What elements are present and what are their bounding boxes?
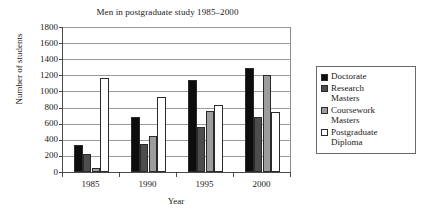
bar bbox=[254, 117, 263, 172]
bar bbox=[271, 112, 280, 172]
y-tick-label: 0 bbox=[18, 168, 58, 177]
bar bbox=[188, 80, 197, 172]
gridline bbox=[63, 43, 291, 44]
x-tick-mark bbox=[233, 172, 234, 177]
y-tick-mark bbox=[59, 140, 63, 141]
bar bbox=[157, 97, 166, 172]
x-tick-mark bbox=[119, 172, 120, 177]
bar bbox=[74, 145, 83, 172]
y-tick-label: 1600 bbox=[18, 39, 58, 48]
chart-title: Men in postgraduate study 1985–2000 bbox=[45, 7, 290, 18]
legend-item[interactable]: PostgraduateDiploma bbox=[321, 127, 412, 148]
y-tick-mark bbox=[59, 59, 63, 60]
x-tick-label: 1995 bbox=[175, 179, 235, 189]
gridline bbox=[63, 59, 291, 60]
chart-legend: DoctorateResearchMastersCourseworkMaster… bbox=[316, 66, 416, 154]
gridline bbox=[63, 91, 291, 92]
legend-swatch-icon bbox=[321, 107, 328, 114]
bar bbox=[83, 154, 92, 172]
y-tick-mark bbox=[59, 124, 63, 125]
legend-swatch-icon bbox=[321, 85, 328, 92]
y-tick-label: 1400 bbox=[18, 55, 58, 64]
legend-label: CourseworkMasters bbox=[331, 105, 375, 126]
y-tick-label: 600 bbox=[18, 119, 58, 128]
legend-label: ResearchMasters bbox=[331, 83, 364, 104]
legend-item[interactable]: CourseworkMasters bbox=[321, 105, 412, 126]
gridline bbox=[63, 27, 291, 28]
y-tick-label: 800 bbox=[18, 103, 58, 112]
gridline bbox=[63, 75, 291, 76]
x-tick-mark bbox=[176, 172, 177, 177]
legend-label: Doctorate bbox=[331, 71, 366, 82]
y-tick-mark bbox=[59, 156, 63, 157]
y-tick-mark bbox=[59, 43, 63, 44]
legend-item[interactable]: ResearchMasters bbox=[321, 83, 412, 104]
legend-item[interactable]: Doctorate bbox=[321, 71, 412, 82]
y-tick-label: 400 bbox=[18, 135, 58, 144]
legend-swatch-icon bbox=[321, 129, 328, 136]
gridline bbox=[63, 108, 291, 109]
y-tick-mark bbox=[59, 108, 63, 109]
y-tick-label: 1000 bbox=[18, 87, 58, 96]
y-tick-label: 1800 bbox=[18, 23, 58, 32]
bar bbox=[197, 127, 206, 172]
legend-label: PostgraduateDiploma bbox=[331, 127, 378, 148]
x-axis-label: Year bbox=[62, 196, 290, 206]
x-tick-mark bbox=[290, 172, 291, 177]
bar bbox=[214, 105, 223, 172]
bar bbox=[140, 144, 149, 172]
bar bbox=[92, 168, 101, 172]
y-tick-mark bbox=[59, 27, 63, 28]
y-tick-label: 200 bbox=[18, 151, 58, 160]
bar bbox=[149, 136, 158, 172]
x-tick-label: 1990 bbox=[118, 179, 178, 189]
legend-swatch-icon bbox=[321, 74, 328, 81]
bar bbox=[245, 68, 254, 172]
x-tick-label: 1985 bbox=[61, 179, 121, 189]
bar bbox=[100, 78, 109, 172]
bar bbox=[131, 117, 140, 172]
x-tick-label: 2000 bbox=[232, 179, 292, 189]
x-tick-mark bbox=[62, 172, 63, 177]
y-tick-label: 1200 bbox=[18, 71, 58, 80]
y-tick-mark bbox=[59, 75, 63, 76]
bar bbox=[263, 75, 272, 172]
chart-figure: Men in postgraduate study 1985–2000 Numb… bbox=[0, 0, 425, 216]
bar bbox=[206, 111, 215, 172]
plot-area bbox=[62, 27, 291, 173]
y-tick-mark bbox=[59, 91, 63, 92]
